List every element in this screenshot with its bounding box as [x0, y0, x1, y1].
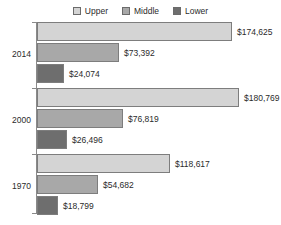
category-label-2000: 2000 [12, 115, 31, 125]
bar-value-2000-upper: $180,769 [244, 93, 279, 103]
bar-2000-middle [37, 109, 123, 128]
legend-label-lower: Lower [185, 7, 208, 16]
legend-label-upper: Upper [85, 7, 108, 16]
axis-tick-3 [32, 213, 37, 214]
bar-chart: Upper Middle Lower 2014 $174,625 $73,392 [0, 0, 281, 225]
legend-swatch-upper-icon [73, 7, 81, 15]
bar-row-2014-upper: $174,625 [37, 22, 272, 41]
legend-item-middle: Middle [122, 7, 159, 16]
bar-row-1970-middle: $54,682 [37, 175, 134, 194]
bar-group-2000: 2000 $180,769 $76,819 $26,496 [37, 88, 281, 152]
bar-1970-middle [37, 175, 98, 194]
axis-tick-1 [32, 88, 37, 89]
bar-2000-lower [37, 130, 67, 149]
bar-row-1970-lower: $18,799 [37, 196, 94, 215]
bar-row-2014-lower: $24,074 [37, 64, 100, 83]
bar-row-2000-upper: $180,769 [37, 88, 279, 107]
bar-2014-upper [37, 22, 232, 41]
bar-1970-upper [37, 154, 170, 173]
bar-row-2014-middle: $73,392 [37, 43, 155, 62]
legend-label-middle: Middle [134, 7, 159, 16]
bar-group-1970: 1970 $118,617 $54,682 $18,799 [37, 154, 281, 218]
bar-1970-lower [37, 196, 58, 215]
bar-value-1970-upper: $118,617 [175, 159, 210, 169]
axis-tick-2 [32, 154, 37, 155]
legend-swatch-lower-icon [173, 7, 181, 15]
bar-2000-upper [37, 88, 239, 107]
legend-item-upper: Upper [73, 7, 108, 16]
bar-row-2000-middle: $76,819 [37, 109, 159, 128]
bar-2014-lower [37, 64, 64, 83]
category-label-1970: 1970 [12, 181, 31, 191]
legend-swatch-middle-icon [122, 7, 130, 15]
bar-value-2000-middle: $76,819 [128, 114, 159, 124]
plot-area: 2014 $174,625 $73,392 $24,074 2000 $180,… [36, 22, 281, 214]
bar-value-1970-lower: $18,799 [63, 201, 94, 211]
bar-value-2014-middle: $73,392 [124, 48, 155, 58]
category-label-2014: 2014 [12, 49, 31, 59]
legend-item-lower: Lower [173, 7, 208, 16]
bar-value-2014-upper: $174,625 [237, 27, 272, 37]
axis-tick-0 [32, 22, 37, 23]
chart-legend: Upper Middle Lower [0, 4, 281, 18]
bar-value-2014-lower: $24,074 [69, 69, 100, 79]
bar-row-2000-lower: $26,496 [37, 130, 103, 149]
bar-group-2014: 2014 $174,625 $73,392 $24,074 [37, 22, 281, 86]
bar-value-1970-middle: $54,682 [103, 180, 134, 190]
bar-value-2000-lower: $26,496 [72, 135, 103, 145]
bar-row-1970-upper: $118,617 [37, 154, 210, 173]
bar-2014-middle [37, 43, 119, 62]
